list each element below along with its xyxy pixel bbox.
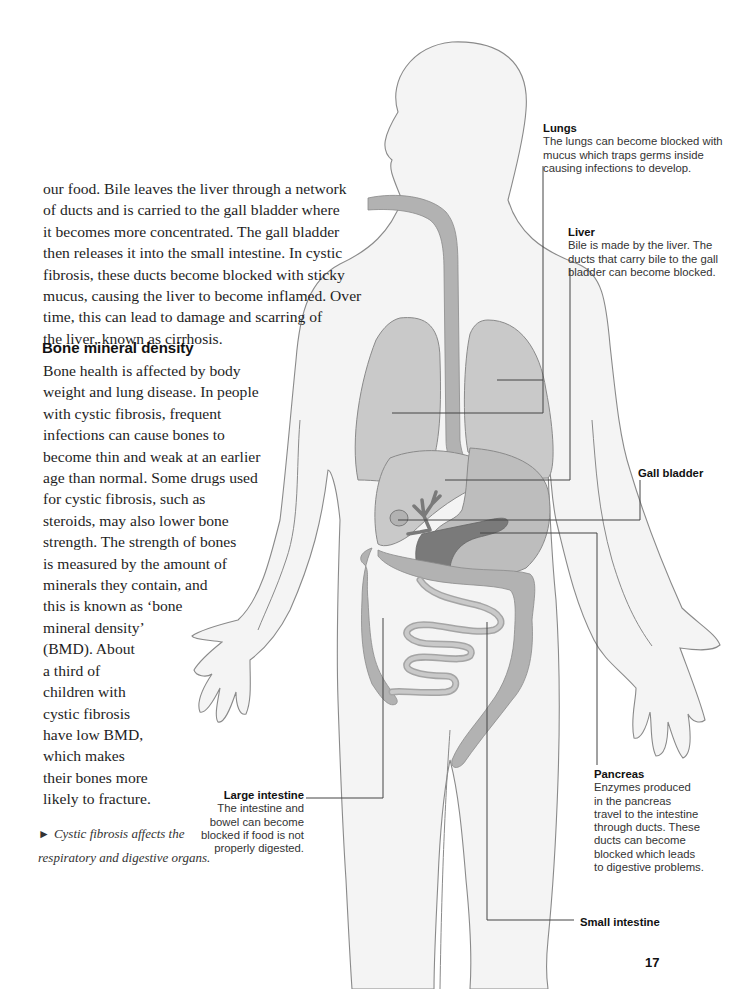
text-line: of ducts and is carried to the gall blad…: [43, 199, 361, 220]
label-text: Bile is made by the liver. The: [568, 239, 718, 252]
label-text: The intestine and: [200, 802, 304, 815]
text-line: age than normal. Some drugs used: [43, 467, 260, 488]
label-lungs: Lungs The lungs can become blocked with …: [543, 122, 723, 175]
label-liver: Liver Bile is made by the liver. The duc…: [568, 226, 718, 279]
gall-bladder: [390, 510, 408, 526]
section-heading: Bone mineral density: [42, 339, 194, 356]
text-line: mineral density’: [43, 617, 260, 638]
text-line: with cystic fibrosis, frequent: [43, 403, 260, 424]
label-text: through ducts. These: [594, 821, 704, 834]
text-line: mucus, causing the liver to become infla…: [43, 285, 361, 306]
text-line: become thin and weak at an earlier: [43, 446, 260, 467]
page-number: 17: [645, 955, 659, 970]
text-line: our food. Bile leaves the liver through …: [43, 178, 361, 199]
text-line: children with: [43, 681, 260, 702]
label-text: properly digested.: [200, 842, 304, 855]
label-title: Gall bladder: [638, 467, 703, 480]
label-text: ducts can become: [594, 834, 704, 847]
text-line: (BMD). About: [43, 638, 260, 659]
text-line: a third of: [43, 660, 260, 681]
caption-line: Cystic fibrosis affects the: [54, 826, 185, 841]
caption-arrow-icon: ►: [38, 827, 50, 841]
label-title: Small intestine: [580, 916, 660, 929]
text-line: then releases it into the small intestin…: [43, 242, 361, 263]
label-text: mucus which traps germs inside: [543, 149, 723, 162]
label-pancreas: Pancreas Enzymes produced in the pancrea…: [594, 768, 704, 874]
text-line: it becomes more concentrated. The gall b…: [43, 221, 361, 242]
label-text: blocked which leads: [594, 848, 704, 861]
text-line: fibrosis, these ducts become blocked wit…: [43, 264, 361, 285]
figure-caption: ►Cystic fibrosis affects the respiratory…: [38, 822, 210, 869]
text-line: cystic fibrosis: [43, 703, 260, 724]
label-text: Enzymes produced: [594, 781, 704, 794]
text-line: for cystic fibrosis, such as: [43, 488, 260, 509]
label-text: to digestive problems.: [594, 861, 704, 874]
label-title: Large intestine: [200, 789, 304, 802]
label-title: Lungs: [543, 122, 723, 135]
label-title: Pancreas: [594, 768, 704, 781]
label-text: The lungs can become blocked with: [543, 135, 723, 148]
text-line: time, this can lead to damage and scarri…: [43, 306, 361, 327]
text-line: steroids, may also lower bone: [43, 510, 260, 531]
label-text: blocked if food is not: [200, 829, 304, 842]
bone-paragraph: Bone health is affected by body weight a…: [43, 360, 260, 810]
label-large-intestine: Large intestine The intestine and bowel …: [200, 789, 304, 855]
text-line: infections can cause bones to: [43, 424, 260, 445]
text-line: have low BMD,: [43, 724, 260, 745]
text-line: weight and lung disease. In people: [43, 381, 260, 402]
text-line: minerals they contain, and: [43, 574, 260, 595]
text-line: strength. The strength of bones: [43, 531, 260, 552]
text-line: this is known as ‘bone: [43, 595, 260, 616]
label-text: bowel can become: [200, 816, 304, 829]
text-line: which makes: [43, 745, 260, 766]
label-text: causing infections to develop.: [543, 162, 723, 175]
intro-paragraph: our food. Bile leaves the liver through …: [43, 178, 361, 349]
text-line: their bones more: [43, 767, 260, 788]
label-title: Liver: [568, 226, 718, 239]
label-gall-bladder: Gall bladder: [638, 467, 703, 480]
label-small-intestine: Small intestine: [580, 916, 660, 929]
label-text: ducts that carry bile to the gall: [568, 253, 718, 266]
label-text: in the pancreas: [594, 795, 704, 808]
label-text: travel to the intestine: [594, 808, 704, 821]
caption-line: respiratory and digestive organs.: [38, 846, 210, 869]
text-line: is measured by the amount of: [43, 553, 260, 574]
label-text: bladder can become blocked.: [568, 266, 718, 279]
text-line: Bone health is affected by body: [43, 360, 260, 381]
